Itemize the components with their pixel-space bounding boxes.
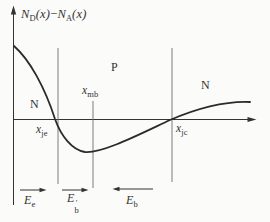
field-label-eb-prime: E′b (67, 192, 79, 213)
point-label-xmb: xmb (82, 84, 98, 99)
region-label-n-right: N (201, 79, 210, 92)
point-label-xjc: xjc (176, 122, 187, 137)
field-arrow-ee-head-icon (40, 188, 47, 192)
diagram-canvas (0, 0, 270, 222)
field-label-eb: Eb (126, 194, 138, 209)
y-axis-arrowhead-icon (11, 6, 16, 15)
x-axis-arrowhead-icon (248, 117, 257, 122)
field-label-ee: Ee (24, 194, 35, 209)
field-arrow-ebp-head-icon (82, 188, 89, 192)
region-label-n-left: N (30, 98, 39, 111)
point-label-xje: xje (36, 123, 47, 138)
region-label-p: P (111, 61, 118, 74)
field-arrow-eb-head-icon (113, 187, 120, 191)
y-axis-label: ND(x)−NA(x) (21, 8, 87, 23)
doping-profile-diagram: ND(x)−NA(x) N P N xje xmb xjc Ee E′b Eb (0, 0, 270, 222)
net-doping-curve (14, 46, 250, 152)
